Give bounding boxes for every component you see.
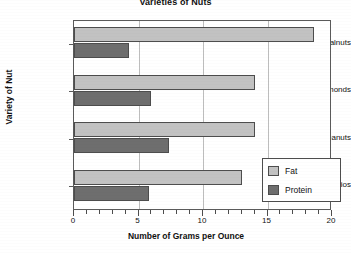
x-minor-tick xyxy=(99,210,100,214)
nuts-bar-chart: Varieties of Nuts Variety of Nut Walnuts… xyxy=(0,0,351,253)
x-minor-tick xyxy=(112,210,113,214)
bar-peanuts-protein xyxy=(74,138,169,153)
x-minor-tick xyxy=(86,210,87,214)
legend-label-fat: Fat xyxy=(285,166,297,176)
chart-title: Varieties of Nuts xyxy=(0,0,351,7)
legend-label-protein: Protein xyxy=(285,185,312,195)
bar-almonds-protein xyxy=(74,91,151,106)
x-minor-tick xyxy=(241,210,242,214)
bar-peanuts-fat xyxy=(74,122,255,137)
legend-item-fat: Fat xyxy=(268,164,297,178)
bar-walnuts-fat xyxy=(74,27,314,42)
bar-almonds-fat xyxy=(74,75,255,90)
x-minor-tick xyxy=(215,210,216,214)
x-minor-tick xyxy=(163,210,164,214)
x-tick-label-0: 0 xyxy=(61,216,85,225)
x-minor-tick xyxy=(292,210,293,214)
y-axis-title: Variety of Nut xyxy=(4,52,14,142)
x-axis-title: Number of Grams per Ounce xyxy=(36,231,336,241)
x-tick-label-20: 20 xyxy=(319,216,343,225)
x-minor-tick xyxy=(279,210,280,214)
x-minor-tick xyxy=(305,210,306,214)
x-tick-label-15: 15 xyxy=(255,216,279,225)
legend-swatch-protein-icon xyxy=(268,185,279,195)
x-minor-tick xyxy=(125,210,126,214)
x-minor-tick xyxy=(150,210,151,214)
bar-pistachios-fat xyxy=(74,170,242,185)
x-tick-label-5: 5 xyxy=(126,216,150,225)
bar-walnuts-protein xyxy=(74,43,129,58)
x-minor-tick xyxy=(176,210,177,214)
x-minor-tick xyxy=(254,210,255,214)
x-minor-tick xyxy=(318,210,319,214)
legend-swatch-fat-icon xyxy=(268,166,279,176)
bar-pistachios-protein xyxy=(74,186,149,201)
x-minor-tick xyxy=(228,210,229,214)
x-minor-tick xyxy=(189,210,190,214)
legend-item-protein: Protein xyxy=(268,183,312,197)
chart-legend: Fat Protein xyxy=(262,158,341,202)
x-tick-label-10: 10 xyxy=(190,216,214,225)
